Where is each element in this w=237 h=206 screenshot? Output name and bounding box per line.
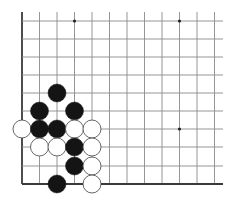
black-stone-icon <box>66 102 84 120</box>
white-stone-icon <box>13 120 31 138</box>
star-point-icon <box>73 19 76 22</box>
black-stone-icon <box>48 84 66 102</box>
white-stone-icon <box>66 120 84 138</box>
black-stone-icon <box>31 102 49 120</box>
black-stone-icon <box>48 175 66 193</box>
black-stone-icon <box>66 157 84 175</box>
white-stone-icon <box>83 157 101 175</box>
star-point-icon <box>178 127 181 130</box>
black-stone-icon <box>48 120 66 138</box>
stones-layer <box>13 84 101 193</box>
white-stone-icon <box>48 138 66 156</box>
go-board-diagram <box>0 0 237 206</box>
black-stone-icon <box>66 138 84 156</box>
white-stone-icon <box>83 175 101 193</box>
black-stone-icon <box>31 120 49 138</box>
white-stone-icon <box>31 138 49 156</box>
white-stone-icon <box>83 120 101 138</box>
white-stone-icon <box>83 138 101 156</box>
star-point-icon <box>178 19 181 22</box>
